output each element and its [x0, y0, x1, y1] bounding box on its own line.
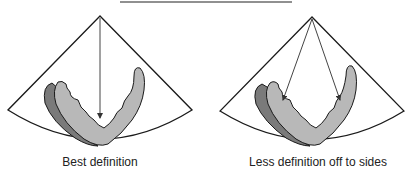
- caption-best-definition: Best definition: [62, 155, 137, 169]
- panel-best-definition: [8, 16, 192, 146]
- diagram-canvas: [0, 0, 414, 174]
- panel-less-definition: [220, 17, 404, 146]
- caption-less-definition: Less definition off to sides: [249, 155, 387, 169]
- ultrasound-sector: [220, 17, 404, 140]
